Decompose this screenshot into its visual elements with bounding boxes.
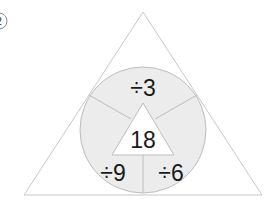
segment-label-bottom-right: ÷6 <box>158 160 183 186</box>
center-value: 18 <box>130 127 156 153</box>
division-diagram: 2 18 ÷3 ÷9 ÷6 <box>0 0 279 205</box>
problem-number: 2 <box>0 16 2 27</box>
segment-label-top: ÷3 <box>130 75 155 101</box>
segment-label-bottom-left: ÷9 <box>100 160 125 186</box>
problem-number-badge: 2 <box>0 13 7 29</box>
